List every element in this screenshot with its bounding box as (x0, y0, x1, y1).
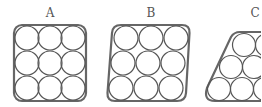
circle (61, 51, 85, 75)
panel-b-label: B (147, 6, 156, 20)
panel-a-label: A (45, 6, 55, 20)
circle (220, 56, 243, 79)
circle (208, 78, 231, 101)
packing-diagram: A B C (0, 0, 261, 107)
circle (254, 78, 262, 101)
circle (38, 76, 62, 100)
circle (164, 26, 188, 50)
circle (38, 26, 62, 50)
circle (233, 34, 256, 57)
circle (243, 56, 262, 79)
circle (15, 26, 39, 50)
panel-c-circles (208, 34, 262, 101)
circle (139, 26, 163, 50)
circle (111, 51, 135, 75)
panel-b: B (107, 6, 189, 101)
circle (256, 34, 262, 57)
circle (134, 76, 158, 100)
circle (109, 76, 133, 100)
circle (114, 26, 138, 50)
circle (136, 51, 160, 75)
circle (61, 26, 85, 50)
circle (15, 76, 39, 100)
panel-b-frame (107, 25, 189, 101)
circle (61, 76, 85, 100)
panel-c-label: C (250, 6, 259, 20)
panel-a-circles (15, 26, 85, 100)
circle (231, 78, 254, 101)
circle (159, 76, 183, 100)
circle (38, 51, 62, 75)
panel-a: A (14, 6, 86, 101)
circle (15, 51, 39, 75)
panel-a-frame (14, 25, 86, 101)
panel-b-circles (109, 26, 188, 100)
panel-c-frame (206, 32, 261, 101)
circle (161, 51, 185, 75)
panel-c: C (206, 6, 261, 101)
